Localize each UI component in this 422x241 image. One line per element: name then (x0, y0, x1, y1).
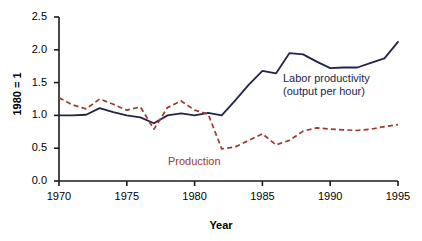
annotation-production: Production (168, 155, 221, 167)
chart-container: 0.00.51.01.52.02.5 197019751980198519901… (0, 0, 422, 241)
x-axis-tick-label: 1995 (378, 190, 418, 202)
annotation-labor-productivity: Labor productivity (output per hour) (283, 72, 370, 98)
x-axis-tick-label: 1990 (310, 190, 350, 202)
x-axis-title: Year (191, 219, 251, 231)
x-axis-tick-label: 1975 (107, 190, 147, 202)
x-axis-tick-label: 1985 (242, 190, 282, 202)
series-line-production (59, 98, 398, 149)
y-axis-tick-label: 1.5 (21, 76, 47, 88)
x-axis-tick-label: 1980 (175, 190, 215, 202)
chart-plot-area (0, 0, 422, 241)
y-axis-tick-label: 2.5 (21, 10, 47, 22)
y-axis-title: 1980 = 1 (11, 64, 23, 124)
annotation-labor-productivity-line2: (output per hour) (283, 85, 370, 98)
annotation-labor-productivity-line1: Labor productivity (283, 72, 370, 85)
y-axis-tick-label: 0.5 (21, 141, 47, 153)
x-axis-tick-label: 1970 (39, 190, 79, 202)
y-axis-tick-label: 1.0 (21, 108, 47, 120)
y-axis-tick-label: 0.0 (21, 174, 47, 186)
y-axis-tick-label: 2.0 (21, 43, 47, 55)
